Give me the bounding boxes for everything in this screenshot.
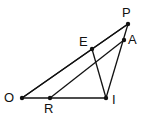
point-i xyxy=(104,96,108,100)
label-r: R xyxy=(44,102,53,115)
label-o: O xyxy=(4,91,14,104)
label-a: A xyxy=(128,33,137,46)
point-r xyxy=(48,96,52,100)
point-a xyxy=(122,38,126,42)
label-i: I xyxy=(112,93,116,106)
point-p xyxy=(126,22,130,26)
label-p: P xyxy=(122,6,131,19)
point-o xyxy=(20,96,24,100)
label-e: E xyxy=(79,35,88,48)
point-e xyxy=(90,47,94,51)
geometry-diagram: P A E O R I xyxy=(0,0,145,119)
